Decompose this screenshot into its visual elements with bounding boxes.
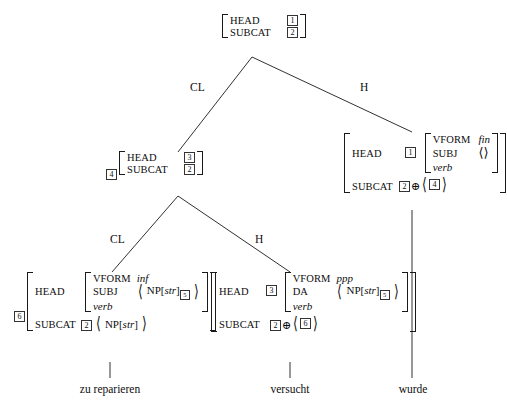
bracket-right bbox=[402, 272, 408, 312]
terminal-versucht: versucht bbox=[250, 383, 330, 395]
feature-row-da: DA ⟨NP[str]5⟩ bbox=[291, 284, 402, 300]
feature-row-vform: VFORM fin bbox=[431, 133, 492, 145]
avm-head-nested: VFORM ppp DA ⟨NP[str]5⟩ verb bbox=[285, 272, 408, 312]
branch-root-to-midright bbox=[252, 57, 412, 132]
val-vform: fin bbox=[472, 133, 492, 145]
terminal-zu-reparieren: zu reparieren bbox=[60, 383, 160, 395]
val-head: 3 VFORM ppp DA ⟨NP[str]5⟩ bbox=[262, 272, 410, 312]
tag-2: 2 bbox=[287, 27, 298, 38]
outer-tag-6: 6 bbox=[14, 311, 25, 322]
feature-row-subcat: SUBCAT 2⊕⟨6⟩ bbox=[217, 312, 410, 332]
val-da: ⟨NP[str]5⟩ bbox=[332, 284, 401, 300]
tag-4: 4 bbox=[429, 179, 440, 190]
node-mid-left[interactable]: 4 HEAD 3 SUBCAT 2 bbox=[106, 151, 203, 179]
type-verb: verb bbox=[291, 300, 333, 312]
avm-leaf-right: HEAD 3 VFORM ppp DA bbox=[211, 272, 416, 332]
tag-3: 3 bbox=[184, 152, 195, 163]
type-row: verb bbox=[291, 300, 402, 312]
attr-da: DA bbox=[291, 284, 333, 300]
oplus-icon: ⊕ bbox=[281, 319, 292, 331]
list-da: ⟨NP[str]5⟩ bbox=[336, 284, 399, 300]
feature-row-vform: VFORM inf bbox=[91, 272, 202, 284]
attr-subcat: SUBCAT bbox=[217, 312, 262, 332]
edge-label-cl-mid: CL bbox=[110, 233, 125, 245]
angle-open: ⟨ bbox=[138, 286, 143, 297]
edge-label-h-top: H bbox=[360, 81, 368, 93]
val-vform: inf bbox=[133, 272, 202, 284]
np-str: NP[str]5 bbox=[145, 284, 192, 300]
tag-1: 1 bbox=[405, 147, 416, 158]
val-head: 1 VFORM fin SUBJ ⟨⟩ bbox=[395, 133, 500, 173]
type-row: verb bbox=[91, 300, 202, 312]
val-vform: ppp bbox=[332, 272, 401, 284]
feature-row-subcat: SUBCAT 2 bbox=[228, 26, 300, 38]
val-subj: ⟨NP[str]5⟩ bbox=[133, 284, 202, 300]
attr-subcat: SUBCAT bbox=[33, 312, 78, 332]
avm-head-nested: VFORM fin SUBJ ⟨⟩ verb bbox=[425, 133, 498, 173]
bracket-right bbox=[300, 14, 306, 38]
node-mid-right[interactable]: HEAD 1 VFORM fin SUBJ ⟨⟩ bbox=[344, 133, 506, 197]
terminal-wurde: wurde bbox=[378, 383, 448, 395]
angle-open: ⟨ bbox=[337, 286, 342, 297]
list-subcat: ⟨4⟩ bbox=[421, 179, 448, 190]
node-root[interactable]: HEAD 1 SUBCAT 2 bbox=[222, 14, 306, 42]
avm-mid-left: HEAD 3 SUBCAT 2 bbox=[119, 151, 203, 175]
feature-row-subcat: SUBCAT 2⟨NP[str]⟩ bbox=[33, 312, 210, 332]
angle-open: ⟨ bbox=[422, 179, 427, 190]
node-leaf-right[interactable]: HEAD 3 VFORM ppp DA bbox=[211, 272, 416, 336]
attr-vform: VFORM bbox=[291, 272, 333, 284]
tag-2: 2 bbox=[399, 181, 410, 192]
np-str: NP[str]5 bbox=[344, 284, 391, 300]
val-head: 1 bbox=[273, 14, 300, 26]
attr-head: HEAD bbox=[350, 133, 395, 173]
attr-subj: SUBJ bbox=[431, 145, 473, 161]
angle-open: ⟨ bbox=[293, 318, 298, 329]
val-head: 3 bbox=[170, 151, 197, 163]
angle-close: ⟩ bbox=[194, 286, 199, 297]
val-head: VFORM inf SUBJ ⟨NP[str]5⟩ verb bbox=[78, 272, 210, 312]
avm-root: HEAD 1 SUBCAT 2 bbox=[222, 14, 306, 38]
outer-tag-4: 4 bbox=[106, 169, 117, 180]
val-subcat: 2 bbox=[170, 163, 197, 175]
tree-branch-lines bbox=[0, 0, 507, 417]
feature-row-subcat: SUBCAT 2 bbox=[125, 163, 197, 175]
tag-6: 6 bbox=[300, 318, 311, 329]
angle-close: ⟩ bbox=[393, 286, 398, 297]
node-leaf-left[interactable]: 6 HEAD VFORM inf SUBJ bbox=[14, 272, 216, 335]
edge-label-h-mid: H bbox=[255, 233, 263, 245]
attr-head: HEAD bbox=[228, 14, 273, 26]
feature-row-subj: SUBJ ⟨⟩ bbox=[431, 145, 492, 161]
tag-2: 2 bbox=[81, 320, 92, 331]
feature-row-head: HEAD 1 VFORM fin SUBJ ⟨⟩ bbox=[350, 133, 500, 173]
feature-row-head: HEAD VFORM inf SUBJ ⟨NP[st bbox=[33, 272, 210, 312]
tag-5: 5 bbox=[380, 290, 390, 300]
attr-head: HEAD bbox=[125, 151, 170, 163]
bracket-right bbox=[197, 151, 203, 175]
attr-vform: VFORM bbox=[91, 272, 133, 284]
attr-head: HEAD bbox=[217, 272, 262, 312]
attr-subcat: SUBCAT bbox=[228, 26, 273, 38]
type-row: verb bbox=[431, 161, 492, 173]
bracket-right bbox=[410, 272, 416, 332]
tag-5: 5 bbox=[180, 290, 190, 300]
edge-label-cl-top: CL bbox=[190, 81, 205, 93]
angle-close: ⟩ bbox=[142, 318, 147, 329]
list-subcat: ⟨6⟩ bbox=[292, 318, 319, 329]
val-subcat: 2⊕⟨4⟩ bbox=[395, 173, 500, 193]
list-subcat: ⟨NP[str]⟩ bbox=[95, 318, 148, 330]
feature-row-subj: SUBJ ⟨NP[str]5⟩ bbox=[91, 284, 202, 300]
tag-1: 1 bbox=[287, 15, 298, 26]
val-subj-empty-list: ⟨⟩ bbox=[472, 145, 492, 161]
angle-open: ⟨ bbox=[96, 318, 101, 329]
type-verb: verb bbox=[431, 161, 473, 173]
tag-2: 2 bbox=[270, 320, 281, 331]
feature-row-subcat: SUBCAT 2⊕⟨4⟩ bbox=[350, 173, 500, 193]
np-str: NP[str] bbox=[103, 318, 140, 330]
list-subj: ⟨NP[str]5⟩ bbox=[137, 284, 200, 300]
avm-head-nested: VFORM inf SUBJ ⟨NP[str]5⟩ verb bbox=[85, 272, 208, 312]
avm-mid-right: HEAD 1 VFORM fin SUBJ ⟨⟩ bbox=[344, 133, 506, 193]
angle-close: ⟩ bbox=[442, 179, 447, 190]
angle-close: ⟩ bbox=[313, 318, 318, 329]
feature-row-head: HEAD 3 bbox=[125, 151, 197, 163]
val-subcat: 2⟨NP[str]⟩ bbox=[78, 312, 210, 332]
